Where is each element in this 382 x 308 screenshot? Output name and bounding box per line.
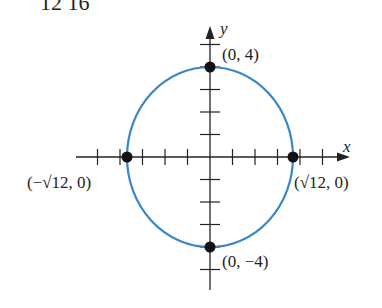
label-top: (0, 4) <box>222 46 259 63</box>
label-right: (√12, 0) <box>294 174 349 191</box>
y-axis-arrow-icon <box>206 26 215 39</box>
label-bottom: (0, −4) <box>222 253 268 270</box>
point-top <box>205 62 216 73</box>
point-left <box>122 152 133 163</box>
point-right <box>288 152 299 163</box>
label-left: (−√12, 0) <box>27 174 91 191</box>
ellipse-graph <box>0 0 382 308</box>
x-axis-label: x <box>343 138 351 155</box>
point-bottom <box>205 242 216 253</box>
y-axis-label: y <box>220 20 228 37</box>
